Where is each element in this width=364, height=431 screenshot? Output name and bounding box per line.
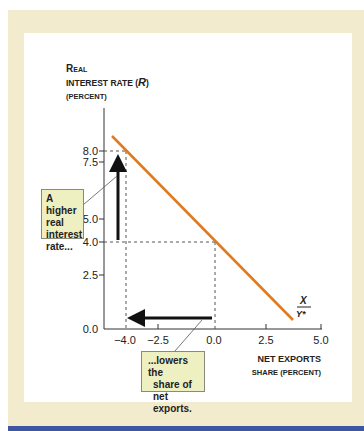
x-tick-m4: −4.0 xyxy=(114,334,136,346)
note1-line2: real xyxy=(46,217,79,229)
curve-label-denominator: Y* xyxy=(296,309,306,319)
annotation-higher-rate: A higher real interest rate... xyxy=(41,189,84,239)
note2-line2: share of xyxy=(148,379,200,391)
x-ticks xyxy=(158,324,321,329)
y-tick-labels: 8.0 7.5 5.0 4.0 2.5 0.0 xyxy=(83,145,98,335)
y-tick-5: 5.0 xyxy=(83,213,98,225)
y-ticks xyxy=(99,151,104,275)
note2-line3: net exports. xyxy=(148,391,200,415)
y-tick-7-5: 7.5 xyxy=(83,156,98,168)
x-tick-0: 0.0 xyxy=(206,334,221,346)
note2-line1: ...lowers the xyxy=(148,355,200,379)
annotation-lower-exports: ...lowers the share of net exports. xyxy=(141,351,205,392)
y-axis-title-line2: interest rate (R) xyxy=(66,76,149,88)
x-tick-m2-5: −2.5 xyxy=(147,334,169,346)
y-tick-2-5: 2.5 xyxy=(83,269,98,281)
x-tick-labels: −4.0 −2.5 0.0 2.5 5.0 xyxy=(114,334,329,346)
y-tick-0: 0.0 xyxy=(83,323,98,335)
note1-line3: interest xyxy=(46,229,79,241)
reference-lines xyxy=(104,151,215,329)
x-tick-2-5: 2.5 xyxy=(258,334,273,346)
note2-connector xyxy=(175,320,202,351)
curve-label-numerator: X xyxy=(299,295,308,306)
note1-line4: rate... xyxy=(46,241,79,253)
note1-connector xyxy=(83,176,117,205)
note1-line1: A higher xyxy=(46,193,79,217)
y-axis-title-line1: Real xyxy=(66,63,88,74)
x-axis-title-line1: Net exports xyxy=(257,354,321,364)
y-tick-4: 4.0 xyxy=(83,236,98,248)
y-axis-title-line3: (percent) xyxy=(66,92,107,101)
net-exports-curve xyxy=(112,136,293,320)
x-axis-title-line2: share (percent) xyxy=(252,368,322,377)
x-tick-5: 5.0 xyxy=(313,334,328,346)
